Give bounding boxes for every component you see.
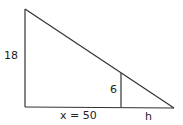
- label-18: 18: [4, 49, 18, 62]
- triangle-diagram: 18 6 x = 50 h: [0, 0, 183, 125]
- hypotenuse: [25, 9, 174, 108]
- base-line: [25, 107, 174, 108]
- label-6: 6: [110, 83, 117, 96]
- label-h: h: [145, 110, 152, 123]
- label-x-50: x = 50: [60, 109, 97, 122]
